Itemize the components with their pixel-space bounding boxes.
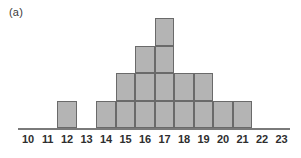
histogram-block xyxy=(194,101,214,129)
x-tick-label: 15 xyxy=(116,133,136,145)
histogram-block xyxy=(135,101,155,129)
histogram-block xyxy=(155,73,175,101)
histogram-block xyxy=(57,101,77,129)
histogram-figure: (a) 1011121314151617181920212223 xyxy=(0,0,301,158)
histogram-block xyxy=(96,101,116,129)
histogram-block xyxy=(155,46,175,74)
x-tick-label: 16 xyxy=(135,133,155,145)
x-axis-line xyxy=(18,128,290,130)
histogram-block xyxy=(116,73,136,101)
histogram-block xyxy=(135,73,155,101)
histogram-block xyxy=(213,101,233,129)
histogram-block xyxy=(155,18,175,46)
plot-area: 1011121314151617181920212223 xyxy=(0,0,301,158)
x-tick-label: 11 xyxy=(38,133,58,145)
x-tick-label: 13 xyxy=(77,133,97,145)
x-tick-label: 23 xyxy=(272,133,292,145)
histogram-block xyxy=(233,101,253,129)
histogram-block xyxy=(135,46,155,74)
x-tick-label: 12 xyxy=(57,133,77,145)
x-tick-label: 22 xyxy=(252,133,272,145)
x-tick-label: 17 xyxy=(155,133,175,145)
histogram-block xyxy=(155,101,175,129)
x-tick-label: 21 xyxy=(233,133,253,145)
histogram-block xyxy=(116,101,136,129)
x-tick-label: 10 xyxy=(18,133,38,145)
histogram-block xyxy=(174,73,194,101)
x-tick-label: 19 xyxy=(194,133,214,145)
x-tick-label: 14 xyxy=(96,133,116,145)
x-tick-label: 18 xyxy=(174,133,194,145)
x-tick-label: 20 xyxy=(213,133,233,145)
histogram-block xyxy=(174,101,194,129)
histogram-block xyxy=(194,73,214,101)
